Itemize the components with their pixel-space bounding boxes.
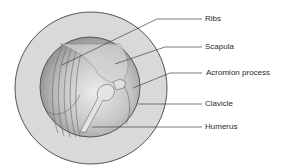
shoulder-diagram	[0, 0, 289, 168]
label-clavicle: Clavicle	[205, 99, 233, 109]
label-ribs: Ribs	[205, 14, 221, 24]
label-humerus: Humerus	[205, 122, 237, 132]
label-scapula: Scapula	[205, 42, 234, 52]
label-acromion-process: Acromion process	[206, 68, 270, 78]
